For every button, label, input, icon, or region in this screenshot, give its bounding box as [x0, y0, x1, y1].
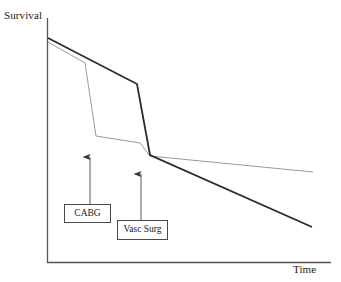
- survival-chart: Survival Time CABG Vasc Surg: [0, 0, 341, 282]
- chart-canvas: [0, 0, 341, 282]
- callout-vasc-surg: Vasc Surg: [117, 220, 168, 240]
- callout-cabg: CABG: [64, 204, 111, 223]
- series-vascular-surgery-line: [48, 42, 313, 172]
- axis-lines: [48, 18, 332, 263]
- x-axis-label: Time: [293, 263, 316, 275]
- y-axis-label: Survival: [4, 9, 42, 21]
- axes-group: [48, 18, 332, 263]
- series-cabg-line: [48, 38, 312, 227]
